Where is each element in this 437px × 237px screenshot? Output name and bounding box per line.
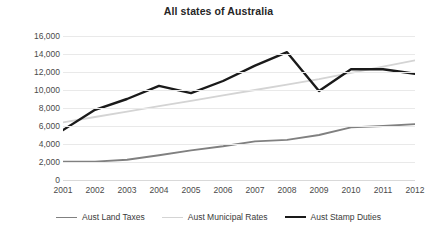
gridline <box>63 108 415 109</box>
legend-label: Aust Stamp Duties <box>311 212 381 222</box>
y-axis-labels: 02,0004,0006,0008,00010,00012,00014,0001… <box>0 36 60 180</box>
legend-swatch-icon <box>56 217 77 218</box>
y-axis-tick-label: 0 <box>2 176 60 184</box>
x-axis-tick-label: 2008 <box>278 185 297 195</box>
gridline <box>63 72 415 73</box>
x-axis-tick-label: 2009 <box>310 185 329 195</box>
x-axis-tick-label: 2002 <box>86 185 105 195</box>
gridline <box>63 144 415 145</box>
x-axis-tick-label: 2001 <box>54 185 73 195</box>
y-axis-tick-label: 10,000 <box>2 86 60 94</box>
x-axis-labels: 2001200220032004200520062007200820092010… <box>63 185 415 199</box>
legend-swatch-icon <box>285 216 306 218</box>
legend-label: Aust Municipal Rates <box>188 212 268 222</box>
legend-swatch-icon <box>162 217 183 218</box>
series-line <box>63 52 415 130</box>
plot-area <box>63 36 415 180</box>
line-chart: All states of Australia 02,0004,0006,000… <box>0 0 437 237</box>
chart-legend: Aust Land TaxesAust Municipal RatesAust … <box>0 212 437 222</box>
x-axis-line <box>63 180 415 181</box>
y-axis-tick-label: 4,000 <box>2 140 60 148</box>
gridline <box>63 36 415 37</box>
y-axis-tick-label: 16,000 <box>2 32 60 40</box>
y-axis-tick-label: 14,000 <box>2 50 60 58</box>
gridline <box>63 126 415 127</box>
legend-item[interactable]: Aust Stamp Duties <box>285 212 381 222</box>
chart-title: All states of Australia <box>0 5 437 17</box>
x-axis-tick-label: 2012 <box>406 185 425 195</box>
gridline <box>63 54 415 55</box>
y-axis-tick-label: 6,000 <box>2 122 60 130</box>
x-axis-tick-label: 2005 <box>182 185 201 195</box>
legend-label: Aust Land Taxes <box>82 212 145 222</box>
y-axis-tick-label: 8,000 <box>2 104 60 112</box>
x-axis-tick-label: 2007 <box>246 185 265 195</box>
x-axis-tick-label: 2010 <box>342 185 361 195</box>
y-axis-tick-label: 12,000 <box>2 68 60 76</box>
gridline <box>63 90 415 91</box>
series-line <box>63 124 415 161</box>
x-axis-tick-label: 2003 <box>118 185 137 195</box>
x-axis-tick-label: 2004 <box>150 185 169 195</box>
y-axis-tick-label: 2,000 <box>2 158 60 166</box>
legend-item[interactable]: Aust Land Taxes <box>56 212 145 222</box>
x-axis-tick-label: 2006 <box>214 185 233 195</box>
x-axis-tick-label: 2011 <box>374 185 392 195</box>
legend-item[interactable]: Aust Municipal Rates <box>162 212 268 222</box>
gridline <box>63 162 415 163</box>
